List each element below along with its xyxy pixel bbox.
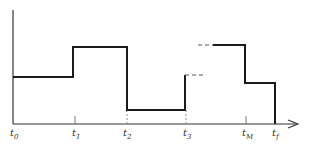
step-function-diagram: t0t1t2t3tMtf [0, 0, 309, 146]
x-label-t1: t1 [72, 127, 81, 141]
x-label-t2: t2 [123, 127, 132, 141]
step-path-second [213, 45, 275, 124]
x-label-tM: tM [242, 127, 254, 141]
x-label-t0: t0 [10, 127, 19, 141]
x-label-t3: t3 [183, 127, 192, 141]
x-label-tf: tf [272, 127, 280, 141]
step-path-first [13, 47, 185, 110]
